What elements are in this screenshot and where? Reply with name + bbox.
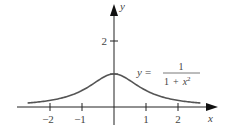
denominator-plus: + xyxy=(173,76,179,87)
x-tick-label: −2 xyxy=(42,113,54,125)
axes xyxy=(17,4,218,125)
x-tick-label: 2 xyxy=(175,113,181,125)
chart-area: −2−1122 y x y= 1 1+x2 xyxy=(0,0,228,139)
x-tick-label: −1 xyxy=(74,113,86,125)
y-tick-label: 2 xyxy=(102,35,108,47)
y-axis-arrow-icon xyxy=(110,4,118,16)
equation-denominator: 1+x2 xyxy=(164,75,191,87)
equation-lhs: y= xyxy=(136,66,151,78)
tick-labels: −2−1122 xyxy=(42,35,181,125)
equation-equals: = xyxy=(145,66,151,78)
denominator-one: 1 xyxy=(164,76,169,87)
equation-annotation: y= 1 1+x2 xyxy=(136,61,200,87)
y-axis-label: y xyxy=(119,0,125,12)
equation-numerator: 1 xyxy=(179,61,184,72)
equation-y: y xyxy=(136,66,142,78)
x-axis-arrow-icon xyxy=(206,103,218,111)
x-axis-label: x xyxy=(207,112,213,124)
denominator-exponent: 2 xyxy=(187,75,191,83)
x-tick-label: 1 xyxy=(143,113,149,125)
